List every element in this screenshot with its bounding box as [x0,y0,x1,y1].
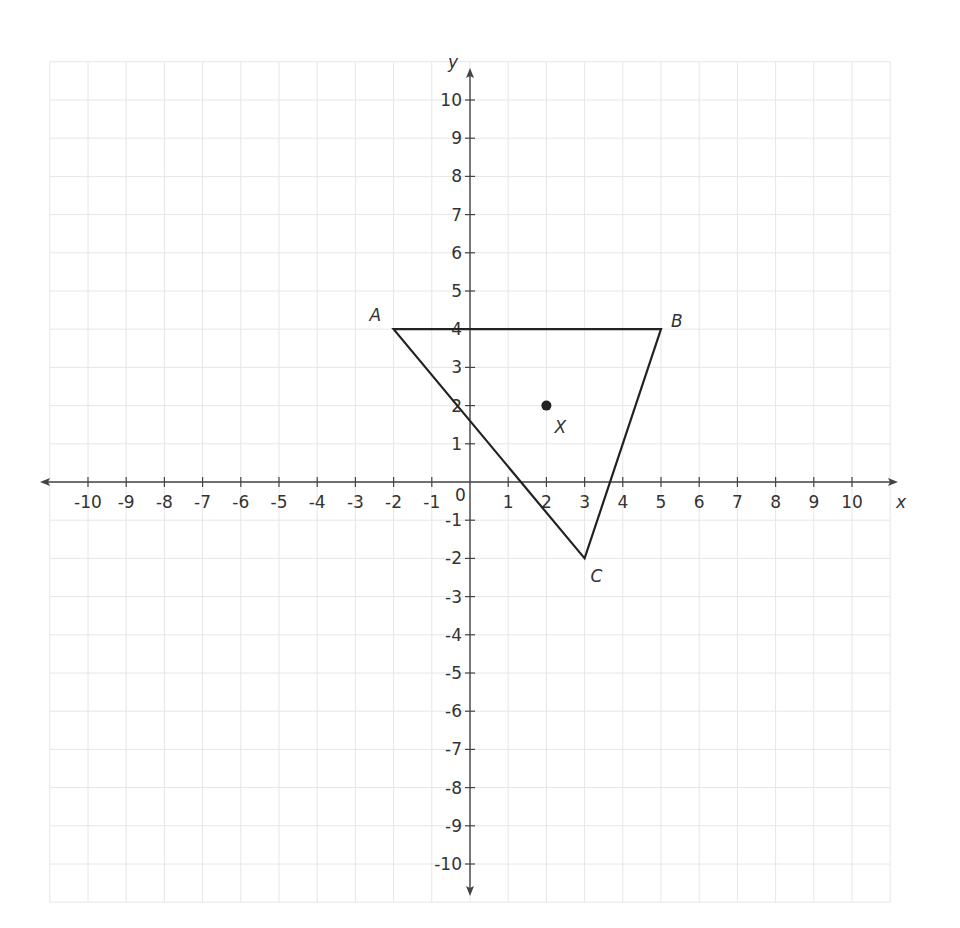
x-tick-label: 7 [732,492,743,512]
x-tick-label: -3 [347,492,364,512]
x-tick-label: 8 [770,492,781,512]
x-tick-label: 5 [656,492,667,512]
vertex-label-c: C [591,566,603,586]
point-x-dot-icon [541,401,551,411]
y-tick-label: -7 [445,739,462,759]
y-tick-label: -6 [445,701,462,721]
y-tick-label: -10 [434,854,462,874]
x-tick-label: 4 [617,492,628,512]
y-tick-label: 7 [451,205,462,225]
x-tick-label: 1 [503,492,514,512]
x-tick-label: 6 [694,492,705,512]
x-tick-label: -5 [271,492,288,512]
x-tick-label: 10 [841,492,863,512]
y-tick-label: -3 [445,587,462,607]
x-tick-label: 3 [579,492,590,512]
x-axis-label: x [895,492,907,512]
y-tick-label: 8 [451,166,462,186]
point-label-x: X [553,417,566,437]
y-tick-label: -4 [445,625,462,645]
x-tick-label: -8 [156,492,173,512]
x-tick-label: -2 [385,492,402,512]
triangle-abc: ABC [369,305,683,586]
x-tick-label: -7 [194,492,211,512]
y-tick-label: 6 [451,243,462,263]
y-axis-label: y [447,52,459,72]
y-tick-label: -8 [445,778,462,798]
x-tick-label: -6 [232,492,249,512]
coordinate-plane: -10-9-8-7-6-5-4-3-2-112345678910-10-9-8-… [0,0,960,928]
origin-label: 0 [455,485,466,505]
y-tick-label: 3 [451,357,462,377]
x-tick-label: -1 [423,492,440,512]
y-tick-label: 5 [451,281,462,301]
axes [40,68,898,896]
y-tick-label: -9 [445,816,462,836]
y-tick-label: -5 [445,663,462,683]
y-tick-label: -1 [445,510,462,530]
x-tick-label: -10 [74,492,102,512]
x-tick-label: -9 [118,492,135,512]
y-tick-label: -2 [445,548,462,568]
vertex-label-a: A [369,305,382,325]
y-tick-label: 10 [440,90,462,110]
y-tick-label: 1 [451,434,462,454]
y-tick-label: 9 [451,128,462,148]
x-tick-label: -4 [309,492,326,512]
vertex-label-b: B [671,311,683,331]
x-tick-label: 9 [808,492,819,512]
